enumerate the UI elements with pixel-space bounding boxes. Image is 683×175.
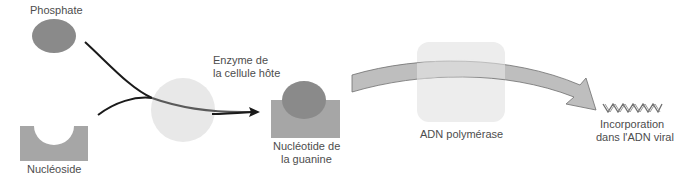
nucleotide-phosphate-shape [282, 81, 326, 119]
nucleoside-shape [20, 126, 88, 161]
diagram-graphics [0, 0, 683, 175]
dna-polymerase-shape [417, 42, 505, 122]
nucleoside-label: Nucléoside [27, 163, 81, 175]
incorporation-label-line2: dans l'ADN viral [596, 131, 674, 144]
nucleotide-label-line2: la guanine [281, 153, 332, 166]
antiviral-mechanism-diagram: Phosphate Nucléoside Enzyme de la cellul… [0, 0, 683, 175]
phosphate-path-line [85, 42, 152, 98]
enzyme-label-line1: Enzyme de [213, 54, 268, 67]
polymerase-label: ADN polymérase [420, 128, 503, 141]
enzyme-label-line2: la cellule hôte [213, 67, 280, 80]
nucleoside-path-line [98, 98, 152, 115]
phosphate-shape [32, 19, 76, 53]
incorporation-label-line1: Incorporation [600, 118, 664, 131]
nucleotide-label-line1: Nucléotide de [273, 140, 340, 153]
phosphate-label: Phosphate [30, 4, 83, 17]
